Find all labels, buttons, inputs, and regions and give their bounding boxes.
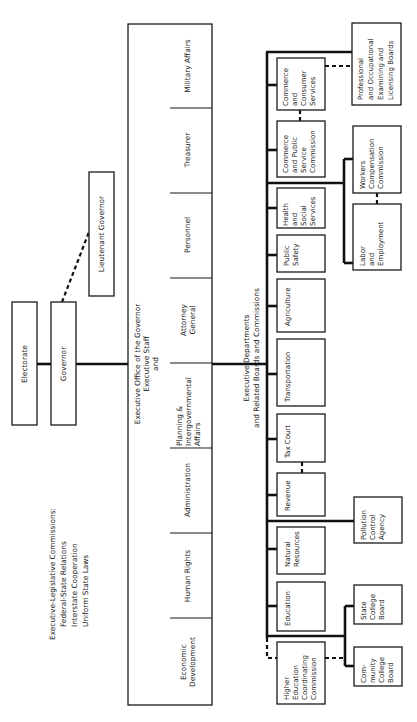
exec-unit-administration: Administration [183,463,192,517]
svg-text:College: College [369,594,377,620]
svg-text:Treasurer: Treasurer [183,132,192,168]
svg-text:and Related Boards and Commiss: and Related Boards and Commissions [252,288,261,428]
svg-text:Executive Office of the Govern: Executive Office of the Governor [133,303,142,424]
svg-text:Natural: Natural [284,541,292,567]
svg-text:Pollution: Pollution [360,510,368,540]
lieutenant-governor-box: Lieutenant Governor [89,172,114,296]
svg-text:Public: Public [283,245,291,266]
svg-text:and: and [151,357,160,371]
svg-text:Services: Services [309,196,317,226]
dept-natural-resources: Natural Resources [277,527,325,574]
board-professional-occupational-licensing: Professional and Occupational Examining … [352,23,401,105]
electorate-box: Electorate [12,302,37,425]
svg-text:Transportation: Transportation [284,351,292,403]
svg-text:Education: Education [284,591,292,626]
svg-text:Tax Court: Tax Court [284,425,292,459]
svg-text:Intergovernmental: Intergovernmental [184,377,193,446]
exec-unit-treasurer: Treasurer [183,132,192,168]
svg-text:Affairs: Affairs [193,422,202,446]
svg-text:Revenue: Revenue [284,481,292,512]
svg-text:and Occupational: and Occupational [367,39,375,100]
dept-higher-education-coordinating-commission: Higher Education Coordinating Commission [277,642,325,704]
svg-text:Agriculture: Agriculture [284,288,292,327]
svg-text:Attorney: Attorney [179,304,188,336]
svg-text:Social: Social [300,205,308,226]
exec-unit-economic-development: Economic Development [179,637,197,687]
svg-text:Health: Health [282,203,290,226]
svg-text:and Public: and Public [291,137,299,173]
svg-text:Consumer: Consumer [300,70,308,106]
svg-text:Development: Development [188,637,197,687]
svg-text:General: General [188,305,197,334]
svg-text:Commission: Commission [309,130,317,173]
svg-text:Resources: Resources [293,531,301,567]
board-pollution-control-agency: Pollution Control Agency [354,497,402,543]
svg-text:and: and [291,93,299,106]
svg-text:Executive Staff: Executive Staff [142,335,151,391]
dept-agriculture: Agriculture [277,279,325,332]
svg-text:College: College [378,657,386,683]
svg-text:Compensation: Compensation [368,138,376,189]
svg-text:Economic: Economic [179,644,188,680]
svg-text:Interstate Cooperation: Interstate Cooperation [70,543,79,627]
dept-public-safety: Public Safety [277,235,325,272]
svg-text:Service: Service [300,147,308,173]
board-labor-employment: Labor and Employment [353,204,401,270]
svg-text:Com-: Com- [360,664,368,683]
dept-tax-court: Tax Court [277,414,325,462]
exec-unit-personnel: Personnel [183,217,192,253]
svg-text:Commerce: Commerce [282,135,290,173]
org-chart: Electorate Governor Lieutenant Governor … [0,0,417,722]
svg-text:Commerce: Commerce [282,68,290,106]
dept-revenue: Revenue [277,473,325,516]
svg-text:Employment: Employment [377,221,385,266]
governor-box: Governor [51,302,76,425]
svg-text:Uniform State Laws: Uniform State Laws [81,555,90,627]
svg-text:Board: Board [387,662,395,683]
executive-office-box: Executive Office of the Governor Executi… [128,24,212,705]
svg-text:Workers: Workers [359,160,367,189]
svg-text:Coordinating: Coordinating [301,655,309,700]
board-community-college: Com- munity College Board [354,647,402,686]
dept-health-social-services: Health and Social Services [277,188,325,228]
exec-unit-attorney-general: Attorney General [179,304,197,336]
svg-text:Planning &: Planning & [175,406,184,446]
svg-text:Services: Services [309,76,317,106]
svg-text:Higher: Higher [283,677,291,700]
departments-label: Executive Departments and Related Boards… [242,288,261,428]
dept-transportation: Transportation [277,339,325,406]
svg-text:Governor: Governor [59,346,68,381]
board-workers-compensation-commission: Workers Compensation Commission [353,126,401,193]
svg-text:Safety: Safety [292,244,300,266]
svg-text:Licensing Boards: Licensing Boards [387,40,395,100]
svg-text:Personnel: Personnel [183,217,192,253]
svg-text:Executive Departments: Executive Departments [242,314,251,401]
svg-text:Agency: Agency [378,514,386,540]
svg-text:Lieutenant Governor: Lieutenant Governor [97,195,106,272]
svg-text:Commission: Commission [310,657,318,700]
dept-education: Education [277,582,325,631]
svg-text:and: and [368,253,376,266]
svg-text:Control: Control [369,515,377,540]
svg-text:Professional: Professional [357,58,365,100]
governor-ltgov-dashed-line [62,232,89,302]
svg-text:Electorate: Electorate [20,345,29,383]
commissions-note: Executive-Legislative Commissions: Feder… [48,508,90,640]
exec-unit-military-affairs: Military Affairs [183,39,192,92]
dept-commerce-consumer-services: Commerce and Consumer Services [277,58,325,110]
svg-text:Education: Education [292,665,300,700]
svg-text:Human Rights: Human Rights [183,550,192,602]
svg-text:Federal-State Relations: Federal-State Relations [59,541,68,627]
svg-text:munity: munity [369,658,377,683]
dept-commerce-public-service-commission: Commerce and Public Service Commission [277,121,325,177]
svg-text:Executive-Legislative Commissi: Executive-Legislative Commissions: [48,508,57,640]
svg-text:State: State [360,601,368,620]
svg-text:Board: Board [378,599,386,620]
svg-text:Examining and: Examining and [377,48,385,100]
svg-text:and: and [291,213,299,226]
svg-text:Military Affairs: Military Affairs [183,39,192,92]
svg-text:Commission: Commission [377,146,385,189]
exec-unit-human-rights: Human Rights [183,550,192,602]
svg-text:Administration: Administration [183,463,192,517]
board-state-college: State College Board [354,585,402,624]
